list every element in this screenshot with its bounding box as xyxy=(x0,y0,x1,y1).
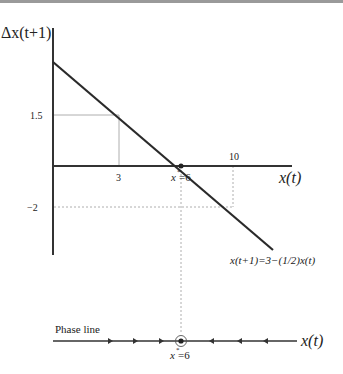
map-line xyxy=(53,62,273,250)
phase-line-title: Phase line xyxy=(55,323,100,335)
arrow-right-icon xyxy=(159,338,164,344)
equilibrium-label-x: x xyxy=(170,171,176,183)
y-axis-label: Δx(t+1) xyxy=(1,24,51,42)
equilibrium-label: x * =6 xyxy=(170,168,191,183)
tick-label-3: 3 xyxy=(116,172,121,183)
arrow-right-icon xyxy=(108,338,113,344)
tick-label-neg2: −2 xyxy=(27,202,38,213)
tick-label-10: 10 xyxy=(229,151,239,162)
phase-eq-label-value: =6 xyxy=(178,349,190,361)
equilibrium-dot xyxy=(178,338,183,343)
arrow-left-icon xyxy=(263,338,268,344)
guide-lines xyxy=(54,115,233,332)
line-equation: x(t+1)=3−(1/2)x(t) xyxy=(229,254,316,267)
arrow-left-icon xyxy=(237,338,242,344)
phase-line: Phase line x * =6 x(t) xyxy=(53,323,323,361)
equilibrium-label-value: =6 xyxy=(179,171,191,183)
arrow-right-icon xyxy=(133,338,138,344)
phase-diagram: Δx(t+1) 1.5 −2 3 10 x(t) x * =6 x(t+1)=3… xyxy=(0,0,343,374)
phase-eq-label-x: x xyxy=(169,349,175,361)
tick-label-1-5: 1.5 xyxy=(30,110,43,121)
phase-line-axis-label: x(t) xyxy=(300,332,323,350)
x-axis-label: x(t) xyxy=(278,169,301,187)
arrow-left-icon xyxy=(209,338,214,344)
